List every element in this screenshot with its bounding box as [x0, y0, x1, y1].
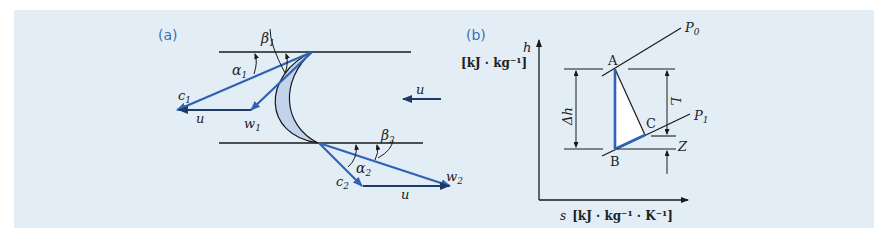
figure-canvas: (a) α1 β1 c1 u w1 u β2 α2 c2 — [0, 0, 884, 241]
beta2-label: β2 — [380, 127, 395, 145]
u-blade-label: u — [416, 82, 424, 97]
y-axis-symbol: h — [523, 40, 531, 55]
panel-b: (b) h [kJ · kg⁻¹] s[kJ · kg⁻¹ · K⁻¹] P0 … — [461, 20, 708, 223]
alpha2-label: α2 — [356, 160, 371, 178]
alpha1-label: α1 — [232, 62, 247, 80]
p1-label: P1 — [693, 108, 708, 125]
panel-b-label: (b) — [466, 27, 486, 43]
l-label: L — [668, 96, 683, 106]
p0-label: P0 — [684, 20, 700, 37]
beta2-angle-arc — [375, 145, 378, 160]
u-outlet-label: u — [401, 187, 409, 202]
panel-a: (a) α1 β1 c1 u w1 u β2 α2 c2 — [158, 27, 463, 202]
w1-label: w1 — [244, 116, 261, 133]
point-b-label: B — [610, 154, 620, 169]
beta1-label: β1 — [260, 30, 275, 48]
alpha1-angle-arc — [254, 54, 256, 74]
u-inlet-label: u — [196, 111, 204, 126]
c1-label: c1 — [178, 88, 191, 105]
c2-label: c2 — [336, 174, 349, 191]
point-c-label: C — [646, 116, 656, 131]
point-a-label: A — [607, 53, 618, 68]
delta-h-label: Δh — [560, 107, 575, 126]
z-label: Z — [677, 139, 688, 154]
panel-a-label: (a) — [158, 27, 178, 43]
w2-label: w2 — [446, 169, 463, 186]
y-axis-unit: [kJ · kg⁻¹] — [461, 56, 527, 70]
x-axis-label: s[kJ · kg⁻¹ · K⁻¹] — [560, 209, 673, 223]
